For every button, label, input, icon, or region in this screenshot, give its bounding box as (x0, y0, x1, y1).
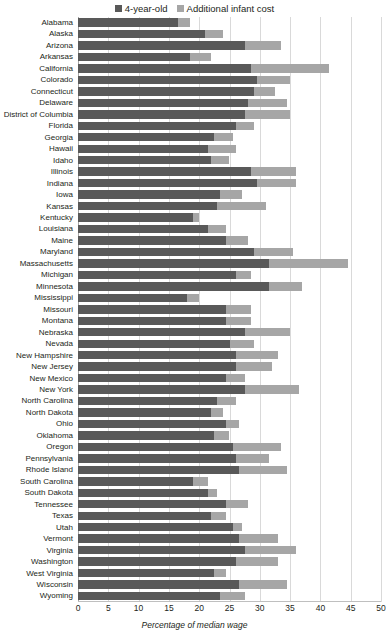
bar-segment-additional-infant-cost[interactable] (214, 431, 229, 439)
stacked-bar[interactable] (78, 557, 278, 565)
stacked-bar[interactable] (78, 213, 199, 221)
bar-segment-four-year-old[interactable] (78, 213, 193, 221)
stacked-bar[interactable] (78, 351, 278, 359)
stacked-bar[interactable] (78, 156, 229, 164)
bar-segment-additional-infant-cost[interactable] (239, 580, 287, 588)
bar-row[interactable] (78, 281, 381, 292)
bar-segment-additional-infant-cost[interactable] (239, 466, 287, 474)
bar-segment-additional-infant-cost[interactable] (233, 443, 281, 451)
bar-row[interactable] (78, 522, 381, 533)
stacked-bar[interactable] (78, 145, 236, 153)
bar-segment-four-year-old[interactable] (78, 397, 217, 405)
bar-segment-additional-infant-cost[interactable] (226, 305, 250, 313)
bar-row[interactable] (78, 315, 381, 326)
bar-row[interactable] (78, 63, 381, 74)
bar-segment-four-year-old[interactable] (78, 328, 245, 336)
bar-row[interactable] (78, 143, 381, 154)
stacked-bar[interactable] (78, 271, 251, 279)
bar-segment-four-year-old[interactable] (78, 225, 208, 233)
bar-row[interactable] (78, 120, 381, 131)
bar-segment-additional-infant-cost[interactable] (211, 512, 226, 520)
stacked-bar[interactable] (78, 534, 278, 542)
bar-segment-additional-infant-cost[interactable] (269, 282, 302, 290)
stacked-bar[interactable] (78, 397, 236, 405)
bar-row[interactable] (78, 407, 381, 418)
bar-segment-four-year-old[interactable] (78, 454, 236, 462)
bar-segment-additional-infant-cost[interactable] (178, 18, 190, 26)
bar-segment-additional-infant-cost[interactable] (208, 145, 235, 153)
bar-segment-additional-infant-cost[interactable] (236, 557, 278, 565)
bar-segment-additional-infant-cost[interactable] (248, 99, 287, 107)
stacked-bar[interactable] (78, 512, 226, 520)
bar-segment-four-year-old[interactable] (78, 202, 217, 210)
stacked-bar[interactable] (78, 236, 248, 244)
bar-segment-additional-infant-cost[interactable] (239, 534, 278, 542)
bar-row[interactable] (78, 51, 381, 62)
stacked-bar[interactable] (78, 374, 245, 382)
bar-segment-four-year-old[interactable] (78, 512, 211, 520)
bar-segment-four-year-old[interactable] (78, 76, 257, 84)
bar-segment-four-year-old[interactable] (78, 259, 269, 267)
bar-segment-additional-infant-cost[interactable] (211, 156, 229, 164)
bar-segment-additional-infant-cost[interactable] (193, 213, 199, 221)
stacked-bar[interactable] (78, 99, 287, 107)
bar-segment-four-year-old[interactable] (78, 282, 269, 290)
stacked-bar[interactable] (78, 76, 290, 84)
bar-segment-four-year-old[interactable] (78, 248, 254, 256)
bar-row[interactable] (78, 28, 381, 39)
bar-segment-four-year-old[interactable] (78, 489, 208, 497)
bar-segment-four-year-old[interactable] (78, 271, 236, 279)
bar-segment-additional-infant-cost[interactable] (236, 362, 272, 370)
bar-row[interactable] (78, 418, 381, 429)
bar-row[interactable] (78, 430, 381, 441)
bar-segment-additional-infant-cost[interactable] (245, 110, 290, 118)
stacked-bar[interactable] (78, 110, 290, 118)
bar-segment-four-year-old[interactable] (78, 420, 226, 428)
bar-segment-additional-infant-cost[interactable] (254, 248, 293, 256)
bar-row[interactable] (78, 109, 381, 120)
stacked-bar[interactable] (78, 53, 211, 61)
stacked-bar[interactable] (78, 282, 302, 290)
stacked-bar[interactable] (78, 546, 296, 554)
bar-segment-additional-infant-cost[interactable] (226, 236, 247, 244)
bar-row[interactable] (78, 568, 381, 579)
bar-segment-additional-infant-cost[interactable] (251, 167, 296, 175)
bar-segment-additional-infant-cost[interactable] (193, 477, 208, 485)
stacked-bar[interactable] (78, 294, 199, 302)
bar-segment-additional-infant-cost[interactable] (245, 546, 297, 554)
stacked-bar[interactable] (78, 580, 287, 588)
bar-segment-four-year-old[interactable] (78, 557, 236, 565)
bar-row[interactable] (78, 487, 381, 498)
bar-row[interactable] (78, 74, 381, 85)
bar-segment-four-year-old[interactable] (78, 340, 230, 348)
bar-segment-additional-infant-cost[interactable] (236, 271, 251, 279)
bar-segment-four-year-old[interactable] (78, 443, 233, 451)
bar-row[interactable] (78, 97, 381, 108)
stacked-bar[interactable] (78, 454, 269, 462)
bar-segment-four-year-old[interactable] (78, 500, 226, 508)
bar-segment-four-year-old[interactable] (78, 122, 236, 130)
stacked-bar[interactable] (78, 385, 299, 393)
stacked-bar[interactable] (78, 167, 296, 175)
bar-segment-additional-infant-cost[interactable] (230, 340, 254, 348)
bar-segment-additional-infant-cost[interactable] (226, 317, 250, 325)
bar-segment-four-year-old[interactable] (78, 294, 187, 302)
stacked-bar[interactable] (78, 133, 233, 141)
bar-segment-additional-infant-cost[interactable] (226, 420, 238, 428)
bar-row[interactable] (78, 258, 381, 269)
bar-segment-additional-infant-cost[interactable] (214, 133, 232, 141)
bar-segment-four-year-old[interactable] (78, 41, 245, 49)
bar-segment-four-year-old[interactable] (78, 477, 193, 485)
bar-segment-additional-infant-cost[interactable] (245, 385, 300, 393)
stacked-bar[interactable] (78, 64, 329, 72)
stacked-bar[interactable] (78, 443, 281, 451)
bar-row[interactable] (78, 223, 381, 234)
bar-segment-additional-infant-cost[interactable] (233, 523, 242, 531)
bar-row[interactable] (78, 178, 381, 189)
bar-segment-four-year-old[interactable] (78, 18, 178, 26)
bar-segment-additional-infant-cost[interactable] (205, 30, 223, 38)
bar-segment-additional-infant-cost[interactable] (217, 397, 235, 405)
bar-segment-additional-infant-cost[interactable] (208, 225, 226, 233)
stacked-bar[interactable] (78, 225, 226, 233)
bar-row[interactable] (78, 304, 381, 315)
